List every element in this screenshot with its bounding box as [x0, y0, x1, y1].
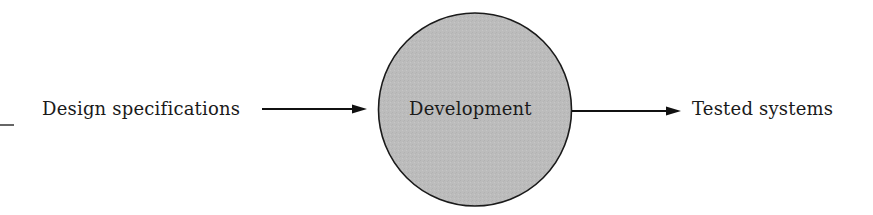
- output-label: Tested systems: [692, 98, 833, 120]
- process-label: Development: [409, 98, 532, 120]
- arrowhead-icon: [352, 105, 367, 114]
- diagram-canvas: Design specifications Development Tested…: [0, 0, 873, 215]
- arrow-input-to-process: [262, 105, 367, 114]
- arrow-process-to-output: [572, 107, 681, 116]
- arrowhead-icon: [666, 107, 681, 116]
- input-label: Design specifications: [42, 98, 240, 120]
